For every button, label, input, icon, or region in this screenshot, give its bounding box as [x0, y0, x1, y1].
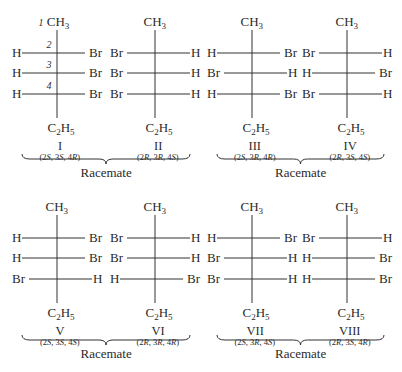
- carbon-number-2: 2: [47, 40, 52, 50]
- bottom-group-VIII: C2H5: [338, 306, 365, 319]
- racemate-label-VII-VIII: Racemate: [275, 347, 326, 360]
- molecule-label-VII: VII: [247, 325, 264, 338]
- right-substituent-VII-c3: H: [288, 251, 297, 264]
- racemate-label-V-VI: Racemate: [81, 347, 132, 360]
- configuration-VI: (2R, 3R, 4R): [137, 338, 180, 347]
- left-substituent-II-c3: Br: [110, 66, 123, 79]
- right-substituent-VIII-c3: Br: [379, 251, 392, 264]
- left-substituent-VII-c2: H: [207, 231, 216, 244]
- right-substituent-V-c3: Br: [89, 251, 102, 264]
- right-substituent-VIII-c4: Br: [379, 272, 392, 285]
- right-substituent-V-c2: Br: [89, 231, 102, 244]
- right-substituent-III-c4: Br: [284, 87, 297, 100]
- racemate-label-I-II: Racemate: [81, 166, 132, 179]
- left-substituent-V-c3: H: [12, 251, 21, 264]
- right-substituent-VI-c2: H: [191, 231, 200, 244]
- left-substituent-III-c4: H: [207, 87, 216, 100]
- right-substituent-II-c4: H: [191, 87, 200, 100]
- right-substituent-VI-c3: H: [191, 251, 200, 264]
- bottom-group-V: C2H5: [48, 306, 75, 319]
- right-substituent-VII-c4: H: [288, 272, 297, 285]
- configuration-IV: (2R, 3S, 4S): [330, 153, 371, 162]
- left-substituent-VIII-c4: H: [302, 272, 311, 285]
- right-substituent-III-c2: Br: [284, 46, 297, 59]
- left-substituent-III-c3: Br: [207, 66, 220, 79]
- left-substituent-VI-c4: H: [110, 272, 119, 285]
- left-substituent-VIII-c3: H: [302, 251, 311, 264]
- molecule-label-VI: VI: [152, 325, 165, 338]
- molecule-label-I: I: [58, 140, 62, 153]
- right-substituent-I-c2: Br: [89, 46, 102, 59]
- configuration-VII: (2S, 3R, 4S): [235, 338, 276, 347]
- right-substituent-III-c3: H: [288, 66, 297, 79]
- right-substituent-II-c2: H: [191, 46, 200, 59]
- bottom-group-II: C2H5: [146, 121, 173, 134]
- configuration-III: (2S, 3R, 4R): [234, 153, 276, 162]
- bottom-group-IV: C2H5: [338, 121, 365, 134]
- left-substituent-II-c4: Br: [110, 87, 123, 100]
- left-substituent-IV-c4: Br: [302, 87, 315, 100]
- top-group-VII: CH3: [241, 200, 264, 213]
- left-substituent-VIII-c2: Br: [302, 231, 315, 244]
- left-substituent-VII-c3: Br: [207, 251, 220, 264]
- left-substituent-IV-c3: H: [302, 66, 311, 79]
- top-group-I: 1 CH3: [39, 15, 70, 28]
- molecule-label-IV: IV: [344, 140, 357, 153]
- left-substituent-V-c2: H: [12, 231, 21, 244]
- configuration-II: (2R, 3R, 4S): [137, 153, 179, 162]
- right-substituent-I-c4: Br: [89, 87, 102, 100]
- top-group-II: CH3: [144, 15, 167, 28]
- left-substituent-I-c4: H: [12, 87, 21, 100]
- molecule-label-III: III: [249, 140, 262, 153]
- bottom-group-VI: C2H5: [146, 306, 173, 319]
- left-substituent-VI-c2: Br: [110, 231, 123, 244]
- configuration-VIII: (2R, 3S, 4R): [329, 338, 371, 347]
- racemate-label-III-IV: Racemate: [275, 166, 326, 179]
- right-substituent-IV-c4: H: [383, 87, 392, 100]
- bottom-group-III: C2H5: [243, 121, 270, 134]
- left-substituent-V-c4: Br: [12, 272, 25, 285]
- carbon-number-3: 3: [47, 60, 52, 70]
- right-substituent-IV-c3: Br: [379, 66, 392, 79]
- top-group-V: CH3: [46, 200, 69, 213]
- fischer-projection-diagram: 1 CH3HBr2HBr3HBr4C2H5I(2S, 3S, 4R)CH3BrH…: [0, 0, 402, 372]
- configuration-I: (2S, 3S, 4R): [40, 153, 81, 162]
- right-substituent-IV-c2: H: [383, 46, 392, 59]
- left-substituent-I-c3: H: [12, 66, 21, 79]
- top-group-VIII: CH3: [336, 200, 359, 213]
- right-substituent-II-c3: H: [191, 66, 200, 79]
- left-substituent-II-c2: Br: [110, 46, 123, 59]
- molecule-label-II: II: [154, 140, 162, 153]
- right-substituent-VI-c4: Br: [187, 272, 200, 285]
- top-group-IV: CH3: [336, 15, 359, 28]
- left-substituent-VI-c3: Br: [110, 251, 123, 264]
- right-substituent-I-c3: Br: [89, 66, 102, 79]
- bottom-group-I: C2H5: [48, 121, 75, 134]
- right-substituent-VIII-c2: H: [383, 231, 392, 244]
- configuration-V: (2S, 3S, 4S): [40, 338, 80, 347]
- left-substituent-III-c2: H: [207, 46, 216, 59]
- top-group-VI: CH3: [144, 200, 167, 213]
- left-substituent-IV-c2: Br: [302, 46, 315, 59]
- bottom-group-VII: C2H5: [243, 306, 270, 319]
- right-substituent-VII-c2: Br: [284, 231, 297, 244]
- right-substituent-V-c4: H: [93, 272, 102, 285]
- left-substituent-VII-c4: Br: [207, 272, 220, 285]
- molecule-label-VIII: VIII: [339, 325, 361, 338]
- carbon-number-4: 4: [47, 81, 52, 91]
- molecule-label-V: V: [56, 325, 65, 338]
- top-group-III: CH3: [241, 15, 264, 28]
- left-substituent-I-c2: H: [12, 46, 21, 59]
